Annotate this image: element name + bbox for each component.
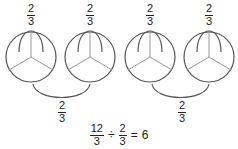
- label-circle-3: 2 3: [146, 3, 154, 27]
- equation-result: 6: [142, 128, 149, 142]
- link-label-2: 2 3: [178, 100, 186, 124]
- equals-sign: =: [131, 128, 138, 142]
- link-arc-1: [33, 84, 90, 98]
- link-label-1: 2 3: [58, 100, 66, 124]
- label-circle-1: 2 3: [27, 3, 35, 27]
- equation-left-fraction: 12 3: [90, 123, 104, 147]
- link-arc-2: [152, 84, 209, 98]
- label-circle-4: 2 3: [205, 3, 213, 27]
- label-circle-2: 2 3: [86, 3, 94, 27]
- divide-operator: ÷: [108, 128, 115, 142]
- equation-right-fraction: 2 3: [119, 123, 127, 147]
- equation: 12 3 ÷ 2 3 = 6: [0, 123, 238, 147]
